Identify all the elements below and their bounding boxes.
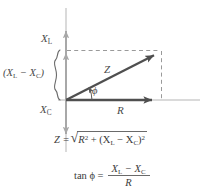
equation-tangent-lhs: tan ϕ = [74, 170, 104, 181]
radicand: R2 + (XL − XC)2 [77, 131, 147, 145]
reactance-difference-brace [54, 50, 60, 100]
fraction-denominator: R [108, 175, 150, 188]
label-resistance-r: R [117, 105, 124, 116]
label-reactance-difference: (XL − XC) [3, 68, 44, 79]
equation-impedance-lhs: Z = [54, 131, 70, 145]
impedance-phasor-figure: XL XC (XL − XC) Z R ϕ Z = √ R2 + (XL − X… [0, 0, 200, 193]
square-root-group: √ R2 + (XL − XC)2 [71, 131, 147, 145]
fraction-group: XL − XC R [108, 163, 150, 188]
fraction-numerator: XL − XC [108, 163, 150, 175]
equation-tangent: tan ϕ = XL − XC R [74, 163, 150, 188]
label-phase-angle-phi: ϕ [92, 86, 97, 97]
label-xc: XC [40, 104, 52, 115]
label-impedance-z: Z [104, 64, 110, 75]
label-xl: XL [41, 33, 52, 44]
impedance-vector-z [66, 55, 154, 100]
equation-impedance: Z = √ R2 + (XL − XC)2 [54, 131, 147, 145]
